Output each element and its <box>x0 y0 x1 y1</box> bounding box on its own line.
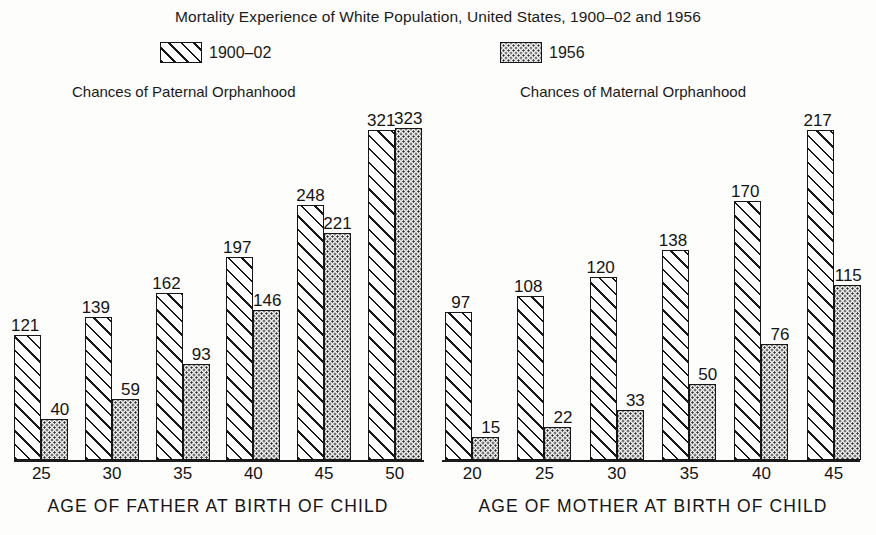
bar-maternal-30-p1956[interactable]: 33 <box>617 410 644 460</box>
bar-value-label: 97 <box>451 294 470 311</box>
panel-subtitle-maternal: Chances of Maternal Orphanhood <box>520 83 746 100</box>
x-tick-maternal-20: 20 <box>436 464 508 484</box>
bar-group-maternal-45: 217115 <box>798 110 870 460</box>
bar-maternal-35-p1900[interactable]: 138 <box>662 250 689 460</box>
bar-value-label: 76 <box>771 326 790 343</box>
bar-maternal-45-p1956[interactable]: 115 <box>834 285 861 460</box>
chart-legend: 1900–02 1956 <box>0 42 876 68</box>
x-tick-paternal-45: 45 <box>289 464 360 484</box>
x-tick-maternal-25: 25 <box>508 464 580 484</box>
x-tick-paternal-30: 30 <box>77 464 148 484</box>
panel-subtitle-paternal: Chances of Paternal Orphanhood <box>72 83 295 100</box>
bar-paternal-35-p1956[interactable]: 93 <box>183 364 210 460</box>
bar-paternal-50-p1900[interactable]: 321 <box>368 130 395 460</box>
bar-value-label: 108 <box>514 278 542 295</box>
plot-area-paternal: 121401395916293197146248221321323 <box>6 110 430 462</box>
bar-group-maternal-40: 17076 <box>725 110 797 460</box>
x-tick-maternal-45: 45 <box>798 464 870 484</box>
bar-value-label: 15 <box>481 419 500 436</box>
bar-value-label: 248 <box>296 187 324 204</box>
bar-value-label: 40 <box>50 401 69 418</box>
x-axis-caption-paternal: AGE OF FATHER AT BIRTH OF CHILD <box>6 496 430 517</box>
legend-item-1900-02: 1900–02 <box>160 42 271 63</box>
bar-maternal-20-p1956[interactable]: 15 <box>472 437 499 460</box>
legend-swatch-hatch-icon <box>160 42 202 63</box>
bar-group-maternal-30: 12033 <box>581 110 653 460</box>
bar-maternal-35-p1956[interactable]: 50 <box>689 384 716 460</box>
bar-maternal-20-p1900[interactable]: 97 <box>445 312 472 460</box>
bar-group-paternal-30: 13959 <box>77 110 148 460</box>
x-tick-labels-paternal: 253035404550 <box>6 464 430 484</box>
bar-value-label: 59 <box>121 381 140 398</box>
bar-maternal-30-p1900[interactable]: 120 <box>590 277 617 460</box>
bar-value-label: 115 <box>835 267 862 284</box>
bar-value-label: 197 <box>223 239 251 256</box>
x-tick-paternal-50: 50 <box>359 464 430 484</box>
bar-group-paternal-40: 197146 <box>218 110 289 460</box>
bar-maternal-25-p1900[interactable]: 108 <box>517 296 544 460</box>
chart-page: Mortality Experience of White Population… <box>0 0 876 535</box>
bar-paternal-25-p1956[interactable]: 40 <box>41 419 68 460</box>
bar-paternal-45-p1956[interactable]: 221 <box>324 233 351 461</box>
bar-value-label: 321 <box>367 112 395 129</box>
bar-value-label: 323 <box>394 110 422 127</box>
bar-group-maternal-25: 10822 <box>508 110 580 460</box>
x-tick-maternal-40: 40 <box>725 464 797 484</box>
bar-group-paternal-50: 321323 <box>359 110 430 460</box>
legend-label-1900-02: 1900–02 <box>209 44 271 62</box>
x-axis-line-maternal <box>442 460 860 462</box>
bar-group-maternal-20: 9715 <box>436 110 508 460</box>
bar-value-label: 33 <box>626 392 645 409</box>
legend-label-1956: 1956 <box>549 44 585 62</box>
bar-value-label: 22 <box>554 409 573 426</box>
bar-maternal-45-p1900[interactable]: 217 <box>807 130 834 460</box>
bar-value-label: 162 <box>152 275 180 292</box>
bar-group-paternal-35: 16293 <box>147 110 218 460</box>
bar-value-label: 170 <box>731 183 759 200</box>
legend-swatch-dots-icon <box>500 42 542 63</box>
x-tick-paternal-35: 35 <box>147 464 218 484</box>
bar-paternal-30-p1900[interactable]: 139 <box>85 317 112 460</box>
x-tick-maternal-35: 35 <box>653 464 725 484</box>
x-tick-paternal-25: 25 <box>6 464 77 484</box>
bar-value-label: 50 <box>698 366 717 383</box>
x-tick-paternal-40: 40 <box>218 464 289 484</box>
bar-group-paternal-25: 12140 <box>6 110 77 460</box>
bar-paternal-45-p1900[interactable]: 248 <box>297 205 324 460</box>
panel-maternal-orphanhood: 971510822120331385017076217115 202530354… <box>436 110 870 535</box>
legend-item-1956: 1956 <box>500 42 585 63</box>
bar-value-label: 221 <box>323 215 351 232</box>
plot-area-maternal: 971510822120331385017076217115 <box>436 110 870 462</box>
bar-value-label: 120 <box>586 259 614 276</box>
bar-value-label: 217 <box>803 112 831 129</box>
bar-value-label: 138 <box>659 232 687 249</box>
chart-title: Mortality Experience of White Population… <box>0 8 876 26</box>
bar-value-label: 93 <box>192 346 211 363</box>
bar-groups-paternal: 121401395916293197146248221321323 <box>6 110 430 460</box>
bar-paternal-40-p1956[interactable]: 146 <box>253 310 280 460</box>
bar-paternal-30-p1956[interactable]: 59 <box>112 399 139 460</box>
x-tick-maternal-30: 30 <box>581 464 653 484</box>
bar-paternal-40-p1900[interactable]: 197 <box>226 257 253 460</box>
x-tick-labels-maternal: 202530354045 <box>436 464 870 484</box>
bar-value-label: 146 <box>253 292 281 309</box>
bar-value-label: 121 <box>11 317 39 334</box>
panel-paternal-orphanhood: 121401395916293197146248221321323 253035… <box>6 110 430 535</box>
bar-paternal-25-p1900[interactable]: 121 <box>14 335 41 460</box>
bar-maternal-40-p1900[interactable]: 170 <box>734 201 761 460</box>
bar-groups-maternal: 971510822120331385017076217115 <box>436 110 870 460</box>
bar-paternal-50-p1956[interactable]: 323 <box>395 128 422 461</box>
bar-maternal-40-p1956[interactable]: 76 <box>761 344 788 460</box>
bar-maternal-25-p1956[interactable]: 22 <box>544 427 571 460</box>
bar-group-maternal-35: 13850 <box>653 110 725 460</box>
bar-group-paternal-45: 248221 <box>289 110 360 460</box>
bar-paternal-35-p1900[interactable]: 162 <box>156 293 183 460</box>
x-axis-caption-maternal: AGE OF MOTHER AT BIRTH OF CHILD <box>436 496 870 517</box>
bar-value-label: 139 <box>82 299 110 316</box>
x-axis-line-paternal <box>14 460 424 462</box>
